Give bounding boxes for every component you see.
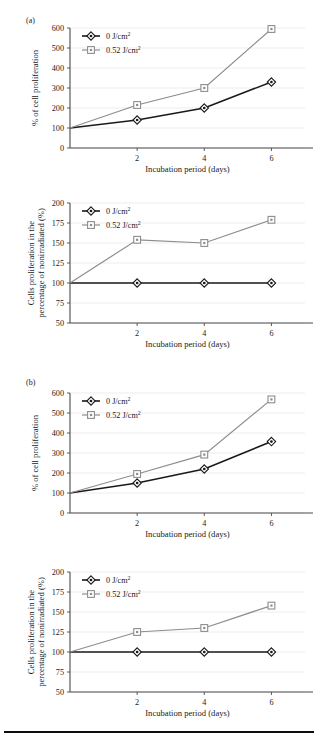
legend-label: 0 J/cm2	[106, 206, 131, 216]
y-axis-tick-label: 200	[52, 104, 64, 113]
y-axis-tick-label: 300	[52, 84, 64, 93]
y-axis-tick-label: 100	[52, 489, 64, 498]
legend-label: 0 J/cm2	[106, 31, 131, 41]
y-axis-title: percentage of nonirradiated (%)	[36, 577, 46, 687]
data-point-center	[90, 593, 92, 595]
legend-label: 0.52 J/cm2	[106, 410, 141, 420]
y-axis-tick-label: 125	[52, 259, 64, 268]
y-axis-tick-label: 100	[52, 279, 64, 288]
y-axis-title: Cells proliferation in the	[26, 590, 36, 674]
chart-panel-a-bottom: 5075100125150175200246Incubation period …	[0, 185, 318, 375]
bottom-divider-rule	[4, 731, 314, 733]
chart-chart-a-top: 0100200300400500600246Incubation period …	[0, 0, 318, 185]
y-axis-tick-label: 175	[52, 588, 64, 597]
y-axis-tick-label: 300	[52, 449, 64, 458]
x-axis-tick-label: 2	[135, 329, 139, 338]
x-axis-tick-label: 2	[135, 154, 139, 163]
data-point-center	[90, 414, 92, 416]
legend-label: 0.52 J/cm2	[106, 45, 141, 55]
x-axis-tick-label: 4	[202, 329, 206, 338]
x-axis-tick-label: 2	[135, 698, 139, 707]
x-axis-title: Incubation period (days)	[145, 529, 230, 539]
figure-container: (a) 0100200300400500600246Incubation per…	[0, 0, 318, 748]
x-axis-title: Incubation period (days)	[145, 708, 230, 718]
series-line-0jcm2	[70, 82, 271, 128]
data-point-center	[136, 239, 138, 241]
series-line-052jcm2	[70, 606, 271, 652]
data-point-center	[90, 35, 93, 38]
x-axis-tick-label: 6	[269, 519, 273, 528]
series-line-052jcm2	[70, 399, 271, 493]
legend-label: 0.52 J/cm2	[106, 220, 141, 230]
y-axis-tick-label: 200	[52, 469, 64, 478]
y-axis-title: % of cell proliferation	[30, 414, 40, 491]
data-point-center	[136, 473, 138, 475]
series-line-052jcm2	[70, 220, 271, 283]
data-point-center	[136, 282, 139, 285]
y-axis-tick-label: 200	[52, 568, 64, 577]
y-axis-tick-label: 125	[52, 628, 64, 637]
data-point-center	[90, 49, 92, 51]
data-point-center	[203, 282, 206, 285]
data-point-center	[203, 107, 206, 110]
series-line-052jcm2	[70, 29, 271, 128]
y-axis-tick-label: 50	[56, 688, 64, 697]
y-axis-title: percentage of nonirradiated (%)	[36, 208, 46, 318]
chart-panel-a-top: (a) 0100200300400500600246Incubation per…	[0, 0, 318, 185]
y-axis-tick-label: 500	[52, 44, 64, 53]
legend-label: 0.52 J/cm2	[106, 589, 141, 599]
data-point-center	[270, 440, 273, 443]
y-axis-tick-label: 600	[52, 389, 64, 398]
chart-chart-b-top: 0100200300400500600246Incubation period …	[0, 375, 318, 560]
data-point-center	[270, 282, 273, 285]
y-axis-tick-label: 500	[52, 409, 64, 418]
data-point-center	[136, 104, 138, 106]
chart-chart-a-bottom: 5075100125150175200246Incubation period …	[0, 185, 318, 375]
data-point-center	[203, 651, 206, 654]
data-point-center	[203, 242, 205, 244]
y-axis-tick-label: 100	[52, 648, 64, 657]
y-axis-tick-label: 75	[56, 668, 64, 677]
data-point-center	[136, 119, 139, 122]
data-point-center	[90, 400, 93, 403]
x-axis-tick-label: 6	[269, 154, 273, 163]
y-axis-tick-label: 400	[52, 429, 64, 438]
chart-chart-b-bottom: 5075100125150175200246Incubation period …	[0, 560, 318, 735]
y-axis-tick-label: 150	[52, 608, 64, 617]
data-point-center	[90, 579, 93, 582]
x-axis-tick-label: 4	[202, 154, 206, 163]
x-axis-title: Incubation period (days)	[145, 164, 230, 174]
x-axis-tick-label: 4	[202, 698, 206, 707]
y-axis-tick-label: 600	[52, 24, 64, 33]
y-axis-tick-label: 0	[60, 509, 64, 518]
x-axis-tick-label: 6	[269, 329, 273, 338]
x-axis-tick-label: 2	[135, 519, 139, 528]
y-axis-tick-label: 0	[60, 144, 64, 153]
data-point-center	[270, 28, 272, 30]
data-point-center	[270, 605, 272, 607]
series-line-0jcm2	[70, 442, 271, 493]
x-axis-title: Incubation period (days)	[145, 339, 230, 349]
data-point-center	[203, 627, 205, 629]
data-point-center	[203, 87, 205, 89]
data-point-center	[203, 454, 205, 456]
chart-panel-b-top: (b) 0100200300400500600246Incubation per…	[0, 375, 318, 560]
y-axis-tick-label: 150	[52, 239, 64, 248]
data-point-center	[136, 482, 139, 485]
data-point-center	[270, 81, 273, 84]
y-axis-title: % of cell proliferation	[30, 49, 40, 126]
y-axis-tick-label: 400	[52, 64, 64, 73]
data-point-center	[270, 219, 272, 221]
x-axis-tick-label: 4	[202, 519, 206, 528]
data-point-center	[270, 398, 272, 400]
legend-label: 0 J/cm2	[106, 396, 131, 406]
data-point-center	[136, 651, 139, 654]
y-axis-tick-label: 200	[52, 199, 64, 208]
y-axis-tick-label: 175	[52, 219, 64, 228]
data-point-center	[90, 210, 93, 213]
y-axis-tick-label: 50	[56, 319, 64, 328]
data-point-center	[270, 651, 273, 654]
y-axis-tick-label: 100	[52, 124, 64, 133]
y-axis-title: Cells proliferation in the	[26, 221, 36, 305]
y-axis-tick-label: 75	[56, 299, 64, 308]
